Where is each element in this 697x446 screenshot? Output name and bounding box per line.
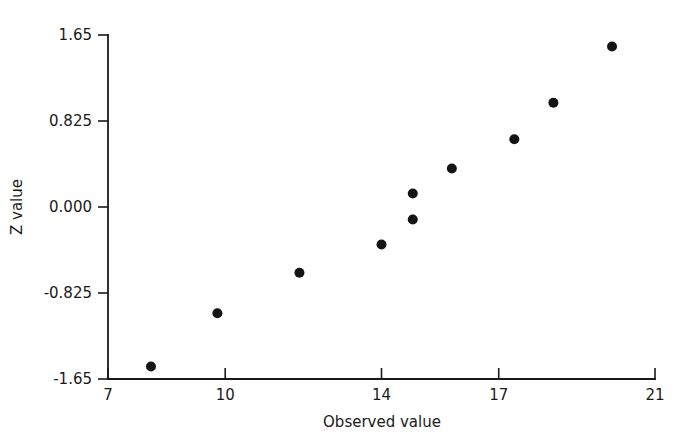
- x-axis-title: Observed value: [323, 413, 441, 431]
- data-point: [607, 41, 617, 51]
- data-point: [548, 98, 558, 108]
- x-tick-label: 14: [372, 386, 391, 404]
- data-point: [146, 361, 156, 371]
- y-tick-label: 0.825: [49, 112, 92, 130]
- x-tick-label: 10: [216, 386, 235, 404]
- data-point: [509, 134, 519, 144]
- data-point: [377, 240, 387, 250]
- normal-probability-plot: 1.650.8250.000-0.825-1.65 710141721 Obse…: [0, 0, 697, 446]
- data-point: [408, 215, 418, 225]
- data-point: [408, 188, 418, 198]
- y-tick-label: 0.000: [49, 198, 92, 216]
- x-tick-label: 21: [645, 386, 664, 404]
- x-tick-label: 7: [103, 386, 113, 404]
- y-tick-label: -1.65: [53, 370, 92, 388]
- data-point: [294, 268, 304, 278]
- scatter-chart-canvas: 1.650.8250.000-0.825-1.65 710141721 Obse…: [0, 0, 697, 446]
- y-tick-label: -0.825: [44, 284, 92, 302]
- data-point: [447, 163, 457, 173]
- x-tick-label: 17: [489, 386, 508, 404]
- y-axis-title: Z value: [8, 179, 26, 235]
- y-tick-label: 1.65: [59, 26, 92, 44]
- data-point: [212, 308, 222, 318]
